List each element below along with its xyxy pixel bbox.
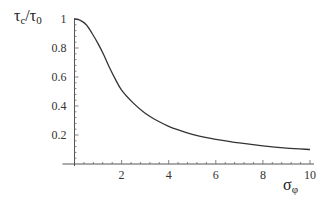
axes <box>63 18 315 166</box>
x-tick-label: 6 <box>213 168 219 182</box>
data-curve <box>75 19 311 150</box>
x-tick-label: 2 <box>119 168 125 182</box>
x-tick-label: 8 <box>260 168 266 182</box>
chart: τc/τ0 σφ 2468100.20.40.60.81 <box>0 0 325 203</box>
y-tick-label: 0.2 <box>52 128 67 142</box>
x-axis-label: σφ <box>283 176 298 195</box>
ticks <box>75 19 311 164</box>
tick-labels: 2468100.20.40.60.81 <box>52 12 317 182</box>
y-tick-label: 1 <box>61 12 67 26</box>
y-axis-label: τc/τ0 <box>14 7 42 26</box>
y-tick-label: 0.4 <box>52 99 67 113</box>
x-tick-label: 4 <box>166 168 172 182</box>
y-tick-label: 0.8 <box>52 41 67 55</box>
y-tick-label: 0.6 <box>52 70 67 84</box>
x-tick-label: 10 <box>304 168 316 182</box>
